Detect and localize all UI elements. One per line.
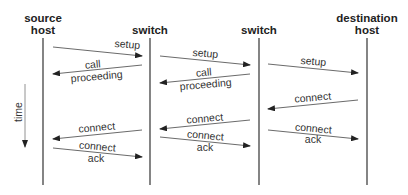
actor-switch-1-label: switch: [132, 24, 168, 36]
svg-text:call: call: [84, 57, 101, 70]
svg-text:ack: ack: [305, 133, 322, 145]
message-call-proceeding-sw1-to-src: call proceeding: [53, 57, 142, 84]
svg-text:connect: connect: [294, 89, 332, 104]
svg-text:ack: ack: [88, 152, 105, 164]
message-call-proceeding-sw2-to-sw1: call proceeding: [160, 65, 250, 92]
svg-text:proceeding: proceeding: [70, 68, 123, 84]
sequence-diagram: source host switch switch destination ho…: [0, 0, 408, 195]
actor-switch-2-label: switch: [241, 24, 277, 36]
svg-text:connect: connect: [78, 119, 116, 134]
svg-text:setup: setup: [114, 37, 141, 51]
message-setup-src-to-sw1: setup: [53, 37, 142, 56]
actor-destination-host-label-2: host: [355, 24, 379, 36]
message-connect-dst-to-sw2: connect: [268, 89, 358, 109]
time-axis-label: time: [12, 102, 24, 122]
actor-source-host-label-2: host: [31, 24, 55, 36]
svg-text:setup: setup: [192, 46, 219, 60]
svg-text:ack: ack: [197, 141, 214, 153]
message-connect-ack-src-to-sw1: connect ack: [53, 138, 142, 164]
actor-destination-host-label-1: destination: [336, 12, 397, 24]
svg-text:proceeding: proceeding: [179, 76, 232, 92]
svg-text:setup: setup: [300, 54, 327, 68]
message-setup-sw2-to-dst: setup: [268, 54, 358, 73]
message-setup-sw1-to-sw2: setup: [160, 46, 250, 65]
message-connect-ack-sw1-to-sw2: connect ack: [160, 127, 250, 153]
message-connect-sw1-to-src: connect: [53, 119, 142, 139]
actor-source-host-label-1: source: [24, 12, 62, 24]
message-connect-ack-sw2-to-dst: connect ack: [268, 120, 358, 145]
message-connect-sw2-to-sw1: connect: [160, 110, 250, 129]
